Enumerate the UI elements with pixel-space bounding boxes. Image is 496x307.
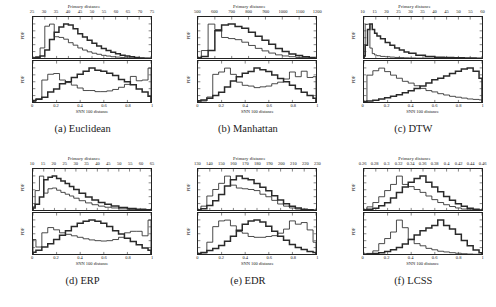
plot-wrapper: Primary distance101520253035404550556065… xyxy=(14,156,154,268)
top-tick-label: 15 xyxy=(372,9,377,15)
y-axis-label-bottom: PDF xyxy=(183,229,192,234)
top-tick-label: 30 xyxy=(42,9,47,15)
top-tick-label: 140 xyxy=(206,161,213,167)
top-tick-labels: 0.260.280.30.320.340.360.380.40.420.440.… xyxy=(363,161,483,167)
panel-dtw: Primary distance1015202530354045505560PD… xyxy=(331,0,496,152)
top-tick-label: 230 xyxy=(314,161,321,167)
top-tick-label: 210 xyxy=(290,161,297,167)
top-tick-label: 0.36 xyxy=(419,161,427,167)
top-tick-label: 0.42 xyxy=(455,161,463,167)
top-tick-label: 0.26 xyxy=(359,161,367,167)
top-tick-label: 45 xyxy=(78,9,83,15)
top-tick-label: 30 xyxy=(73,161,78,167)
bottom-axes xyxy=(363,212,483,256)
top-axes xyxy=(32,168,152,212)
top-tick-label: 60 xyxy=(114,9,119,15)
y-axis-label-top: PDF xyxy=(183,33,192,38)
bottom-plot-canvas xyxy=(364,61,482,103)
top-tick-label: 0.32 xyxy=(395,161,403,167)
top-tick-label: 0.3 xyxy=(384,161,390,167)
plot-wrapper: Primary distance1015202530354045505560PD… xyxy=(345,4,485,116)
top-tick-label: 220 xyxy=(302,161,309,167)
x-axis-label: SNN 100 distance xyxy=(363,109,483,114)
top-tick-label: 0.44 xyxy=(467,161,475,167)
top-plot-canvas xyxy=(33,169,151,211)
x-axis-label: SNN 100 distance xyxy=(32,261,152,266)
y-axis-label-top: PDF xyxy=(18,33,27,38)
top-tick-label: 10 xyxy=(30,161,35,167)
bottom-axes xyxy=(197,60,317,104)
top-tick-label: 55 xyxy=(468,9,473,15)
panel-caption: (f) LCSS xyxy=(331,274,496,287)
panel-caption: (e) EDR xyxy=(165,274,330,287)
top-tick-label: 55 xyxy=(128,161,133,167)
top-axes xyxy=(363,168,483,212)
y-axis-label-bottom: PDF xyxy=(349,229,358,234)
y-axis-label-top: PDF xyxy=(18,185,27,190)
x-axis-label: SNN 100 distance xyxy=(197,109,317,114)
panel-euclidean: Primary distance2530354045505560657075PD… xyxy=(0,0,165,152)
top-tick-labels: 500600700800900100011001200 xyxy=(197,9,317,15)
panel-caption: (d) ERP xyxy=(0,274,165,287)
top-tick-label: 200 xyxy=(278,161,285,167)
top-tick-label: 900 xyxy=(262,9,269,15)
bottom-plot-canvas xyxy=(33,213,151,255)
y-axis-label-top: PDF xyxy=(349,33,358,38)
top-tick-label: 60 xyxy=(480,9,485,15)
top-plot-canvas xyxy=(33,17,151,59)
top-axes xyxy=(197,168,317,212)
y-axis-label-top: PDF xyxy=(349,185,358,190)
top-tick-label: 50 xyxy=(90,9,95,15)
y-axis-label-bottom: PDF xyxy=(18,229,27,234)
y-axis-label-top: PDF xyxy=(183,185,192,190)
plot-wrapper: Primary distance500600700800900100011001… xyxy=(179,4,319,116)
panel-grid: Primary distance2530354045505560657075PD… xyxy=(0,0,496,307)
top-tick-label: 1000 xyxy=(279,9,288,15)
figure-root: Primary distance2530354045505560657075PD… xyxy=(0,0,496,307)
top-tick-label: 0.34 xyxy=(407,161,415,167)
top-tick-label: 35 xyxy=(420,9,425,15)
top-tick-label: 25 xyxy=(62,161,67,167)
panel-manhattan: Primary distance500600700800900100011001… xyxy=(165,0,330,152)
top-tick-label: 0.46 xyxy=(479,161,487,167)
y-axis-label-bottom: PDF xyxy=(18,77,27,82)
top-tick-label: 25 xyxy=(396,9,401,15)
top-tick-label: 40 xyxy=(95,161,100,167)
top-tick-label: 1200 xyxy=(313,9,322,15)
top-tick-label: 180 xyxy=(254,161,261,167)
panel-caption: (c) DTW xyxy=(331,122,496,135)
bottom-axes xyxy=(197,212,317,256)
x-axis-label: SNN 100 distance xyxy=(363,261,483,266)
panel-lcss: Primary distance0.260.280.30.320.340.360… xyxy=(331,152,496,304)
top-tick-label: 500 xyxy=(194,9,201,15)
top-tick-label: 20 xyxy=(384,9,389,15)
top-tick-label: 60 xyxy=(139,161,144,167)
top-tick-label: 50 xyxy=(456,9,461,15)
top-tick-label: 0.4 xyxy=(444,161,450,167)
top-tick-label: 40 xyxy=(66,9,71,15)
panel-caption: (b) Manhattan xyxy=(165,122,330,135)
top-tick-label: 45 xyxy=(106,161,111,167)
top-tick-label: 45 xyxy=(444,9,449,15)
top-tick-labels: 101520253035404550556065 xyxy=(32,161,152,167)
top-tick-label: 20 xyxy=(52,161,57,167)
x-axis-label: SNN 100 distance xyxy=(197,261,317,266)
top-tick-label: 10 xyxy=(360,9,365,15)
top-tick-label: 800 xyxy=(245,9,252,15)
top-tick-label: 35 xyxy=(54,9,59,15)
top-tick-label: 15 xyxy=(41,161,46,167)
bottom-axes xyxy=(32,60,152,104)
top-axes xyxy=(197,16,317,60)
top-tick-label: 75 xyxy=(150,9,155,15)
top-tick-label: 50 xyxy=(117,161,122,167)
bottom-axes xyxy=(32,212,152,256)
top-tick-label: 1100 xyxy=(296,9,305,15)
y-axis-label-bottom: PDF xyxy=(349,77,358,82)
bottom-plot-canvas xyxy=(198,213,316,255)
top-tick-label: 65 xyxy=(150,161,155,167)
plot-wrapper: Primary distance130140150160170180190200… xyxy=(179,156,319,268)
plot-wrapper: Primary distance2530354045505560657075PD… xyxy=(14,4,154,116)
top-tick-labels: 2530354045505560657075 xyxy=(32,9,152,15)
y-axis-label-bottom: PDF xyxy=(183,77,192,82)
top-tick-label: 0.28 xyxy=(371,161,379,167)
